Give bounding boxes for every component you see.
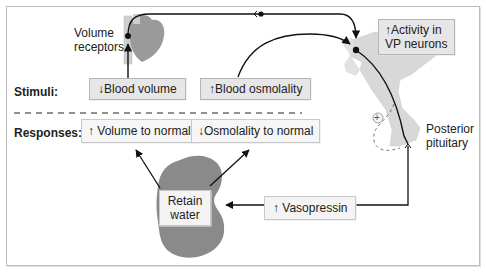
- heart-icon: [124, 14, 164, 64]
- response-osmolality: ↓Osmolality to normal: [191, 119, 320, 143]
- stimulus-blood-osmolality: ↑Blood osmolality: [200, 78, 311, 100]
- posterior-pituitary-label: Posterior pituitary: [426, 122, 474, 150]
- plus-sign: +: [374, 111, 380, 125]
- osmolality-signal-line: [238, 34, 350, 77]
- posterior-pituitary-line1: Posterior: [426, 122, 474, 136]
- to-volume-arrow: [136, 150, 160, 188]
- retain-water-line2: water: [162, 208, 208, 222]
- stimuli-label: Stimuli:: [14, 85, 58, 99]
- response-volume: ↑ Volume to normal: [81, 119, 198, 143]
- volume-receptors-line2: receptors: [74, 40, 124, 54]
- retain-water-box: Retain water: [159, 190, 211, 226]
- vp-neurons-box: ↑Activity in VP neurons: [378, 19, 455, 55]
- volume-receptors-line1: Volume: [74, 26, 124, 40]
- retain-water-line1: Retain: [162, 194, 208, 208]
- stimulus-blood-volume: ↓Blood volume: [89, 78, 186, 100]
- vasopressin-box: ↑ Vasopressin: [264, 196, 356, 220]
- volume-receptors-label: Volume receptors: [74, 26, 124, 54]
- posterior-pituitary-line2: pituitary: [426, 136, 474, 150]
- vp-neurons-line2: VP neurons: [385, 37, 448, 51]
- responses-label: Responses:: [14, 126, 82, 140]
- vp-neurons-line1: ↑Activity in: [385, 23, 448, 37]
